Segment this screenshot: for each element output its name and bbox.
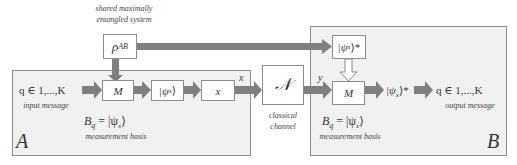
arrow-state-to-outcome [184, 81, 201, 99]
channel-label: 𝒩 [275, 75, 291, 95]
arrow-conj-state-to-b-measure [340, 59, 357, 81]
party-b-label: B [487, 130, 499, 153]
arrow-entangled-to-a-measure [108, 59, 123, 82]
a-basis-rest: = |ψ [95, 114, 118, 128]
b-result-ket: |ψ [386, 84, 396, 96]
arrow-channel-to-b-measure [304, 81, 332, 99]
channel-caption-line2: channel [258, 121, 308, 132]
arrow-outcome-to-channel [235, 81, 262, 99]
b-result-close: ⟩* [399, 84, 409, 96]
b-result: |ψx⟩* [386, 84, 409, 99]
input-message-math: q ∈ 1,...,K [19, 84, 65, 97]
b-basis-math: Bq = |ψx⟩ [322, 114, 364, 130]
a-measure-box: M [102, 80, 134, 101]
shared-system-caption: shared maximally entangled system [84, 3, 164, 25]
a-basis-math: Bq = |ψx⟩ [84, 114, 126, 130]
b-conj-state-box: |ψx⟩* [332, 35, 366, 59]
a-measure-label: M [113, 85, 122, 97]
output-message-caption: output message [440, 101, 500, 110]
rho-subscript: AB [118, 42, 128, 51]
input-message-caption: input message [18, 101, 74, 110]
b-conj-close: ⟩* [351, 41, 361, 54]
arrows-layer [0, 0, 517, 165]
arrow-b-measure-to-result [364, 81, 384, 99]
a-state-box: |ψx⟩ [151, 80, 184, 101]
a-outcome-label: x [216, 85, 221, 97]
arrow-input-to-measure [82, 81, 102, 99]
shared-state-box: ρAB [103, 34, 137, 59]
a-basis-caption: measurement basis [80, 132, 152, 141]
shared-system-caption-line1: shared maximally [84, 3, 164, 14]
input-message-value: q ∈ 1,...,K [19, 84, 65, 96]
channel-edge-label-y: y [318, 72, 322, 83]
a-outcome-box: x [201, 80, 235, 101]
a-state-close: ⟩ [172, 84, 176, 97]
b-basis-close: ⟩ [359, 114, 364, 128]
shared-system-caption-line2: entangled system [84, 14, 164, 25]
b-conj-ket: |ψ [338, 41, 348, 53]
a-state-ket: |ψ [159, 85, 169, 97]
channel-caption-line1: classical [258, 110, 308, 121]
output-message-math: q ∈ 1,...,K [436, 84, 482, 97]
arrow-measure-to-state [134, 81, 151, 99]
channel-box: 𝒩 [262, 65, 304, 105]
b-measure-label: M [344, 87, 353, 99]
channel-caption: classical channel [258, 110, 308, 132]
output-message-value: q ∈ 1,...,K [436, 84, 482, 96]
party-a-label: A [16, 130, 28, 153]
a-basis-close: ⟩ [121, 114, 126, 128]
b-basis-rest: = |ψ [333, 114, 356, 128]
a-edge-label-x: x [239, 72, 243, 83]
b-measure-box: M [332, 81, 365, 105]
b-basis-caption: measurement basis [314, 132, 386, 141]
arrow-result-to-output [414, 81, 433, 99]
arrow-entangled-to-b [137, 39, 332, 54]
